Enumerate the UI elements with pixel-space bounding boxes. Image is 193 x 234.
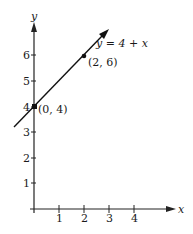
y-tick-3: 3 — [23, 126, 30, 139]
y-tick-1: 1 — [23, 177, 30, 190]
point-0-4 — [32, 104, 37, 109]
y-axis-label: y — [30, 10, 38, 23]
point-2-6 — [82, 54, 87, 59]
equation-label: y = 4 + x — [95, 37, 149, 50]
y-tick-5: 5 — [23, 75, 30, 88]
x-ticks: 1 2 3 4 — [56, 205, 138, 225]
x-axis-label: x — [178, 203, 185, 216]
point-label-2-6: (2, 6) — [88, 56, 118, 69]
x-axis-arrow-icon — [166, 206, 176, 212]
y-tick-6: 6 — [23, 49, 30, 62]
x-tick-2: 2 — [81, 212, 88, 225]
x-tick-3: 3 — [106, 212, 113, 225]
point-label-0-4: (0, 4) — [38, 103, 68, 116]
x-tick-4: 4 — [131, 212, 138, 225]
x-tick-1: 1 — [56, 212, 63, 225]
line-graph: y x 1 2 3 4 1 2 3 4 5 6 (0, 4) (2, 6) y … — [0, 0, 193, 234]
y-axis-arrow-icon — [31, 22, 37, 32]
y-tick-2: 2 — [23, 152, 30, 165]
